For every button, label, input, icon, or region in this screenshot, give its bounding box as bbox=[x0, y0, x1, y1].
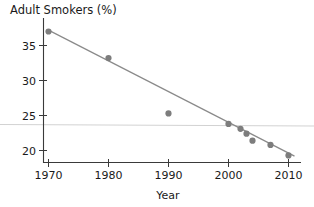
data-point bbox=[285, 152, 291, 158]
x-tick-label-1970: 1970 bbox=[35, 169, 63, 182]
y-tick-label-25: 25 bbox=[22, 110, 36, 123]
x-tick-label-1990: 1990 bbox=[155, 169, 183, 182]
data-point bbox=[165, 110, 171, 116]
data-point bbox=[267, 142, 273, 148]
data-point bbox=[243, 131, 249, 137]
x-axis-tick-labels: 1970 1980 1990 2000 2010 bbox=[35, 169, 303, 182]
data-point bbox=[105, 55, 111, 61]
chart-title: Adult Smokers (%) bbox=[10, 3, 117, 17]
data-point bbox=[225, 121, 231, 127]
reference-line bbox=[0, 125, 314, 127]
data-point bbox=[45, 28, 51, 34]
x-tick-label-2010: 2010 bbox=[275, 169, 303, 182]
x-tick-label-2000: 2000 bbox=[215, 169, 243, 182]
data-point bbox=[249, 138, 255, 144]
data-point bbox=[237, 126, 243, 132]
y-tick-label-20: 20 bbox=[22, 145, 36, 158]
y-axis-tick-labels: 35 30 25 20 bbox=[22, 40, 36, 158]
y-tick-label-30: 30 bbox=[22, 75, 36, 88]
trend-line bbox=[49, 30, 295, 156]
chart-container: Adult Smokers (%) 35 30 25 20 197 bbox=[0, 0, 314, 207]
scatter-plot-svg: Adult Smokers (%) 35 30 25 20 197 bbox=[0, 0, 314, 207]
x-axis-title: Year bbox=[155, 189, 180, 202]
x-tick-label-1980: 1980 bbox=[95, 169, 123, 182]
y-tick-label-35: 35 bbox=[22, 40, 36, 53]
